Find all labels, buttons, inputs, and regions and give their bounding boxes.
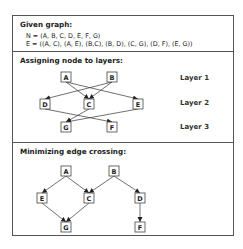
node-a: A [61, 72, 71, 82]
edge-a-c [66, 176, 89, 193]
node-f: F [107, 122, 117, 132]
node-c: C [84, 193, 94, 203]
edge-b-c [89, 82, 112, 99]
node-g: G [61, 222, 71, 232]
node-d: D [40, 99, 50, 109]
graph-canvas: ABDCEGF ABECDGF [0, 0, 243, 249]
svg-text:F: F [138, 224, 142, 232]
svg-text:G: G [63, 124, 68, 132]
minimize-graph: ABECDGF [37, 166, 145, 232]
svg-text:F: F [110, 124, 114, 132]
node-b: B [107, 72, 117, 82]
svg-text:A: A [63, 168, 68, 176]
node-d: D [135, 193, 145, 203]
node-c: C [84, 99, 94, 109]
layers-graph: ABDCEGF [40, 72, 143, 132]
svg-text:G: G [63, 224, 68, 232]
node-f: F [135, 222, 145, 232]
node-a: A [61, 166, 71, 176]
edge-c-g [66, 203, 89, 222]
node-e: E [37, 193, 47, 203]
svg-text:E: E [136, 101, 140, 109]
node-g: G [61, 122, 71, 132]
svg-text:E: E [40, 195, 44, 203]
edge-b-c [89, 176, 114, 193]
node-b: B [109, 166, 119, 176]
svg-text:C: C [87, 195, 92, 203]
svg-text:C: C [87, 101, 92, 109]
edge-e-g [42, 203, 66, 222]
svg-text:D: D [42, 101, 48, 109]
svg-text:B: B [110, 74, 115, 82]
svg-text:B: B [112, 168, 117, 176]
node-e: E [133, 99, 143, 109]
svg-text:A: A [63, 74, 68, 82]
svg-text:D: D [137, 195, 143, 203]
edge-a-e [42, 176, 66, 193]
edge-b-d [114, 176, 140, 193]
